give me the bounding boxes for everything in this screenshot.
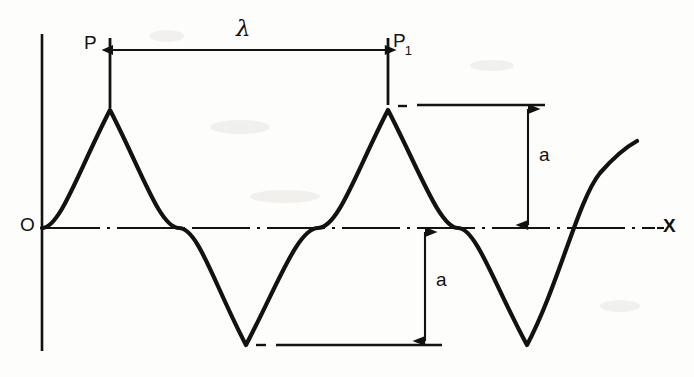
origin-label: O: [20, 215, 35, 234]
wave-diagram-canvas: [0, 0, 694, 377]
amplitude-upper-label: a: [539, 145, 550, 164]
scan-speck: [600, 300, 640, 312]
scan-speck: [470, 60, 514, 71]
scan-speck: [150, 30, 184, 42]
amplitude-lower-label: a: [436, 270, 447, 289]
point-p1-label: P1: [393, 31, 413, 54]
point-p1-base: P: [393, 30, 406, 51]
wave-diagram-figure: O X P P1 λ a a: [0, 0, 694, 377]
scan-speck: [210, 120, 270, 134]
scan-speck: [250, 190, 320, 203]
point-p-label: P: [84, 33, 97, 52]
wavelength-label: λ: [236, 17, 251, 40]
x-axis-label: X: [663, 216, 676, 235]
point-p1-subscript: 1: [405, 43, 412, 58]
